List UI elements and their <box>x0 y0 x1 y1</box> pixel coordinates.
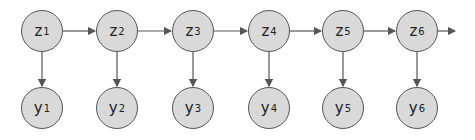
observed-node-y3: y3 <box>172 87 214 129</box>
observed-node-y5: y5 <box>322 87 364 129</box>
observed-node-y1: y1 <box>21 87 63 129</box>
hidden-node-z5: z5 <box>322 10 364 52</box>
hidden-node-z4: z4 <box>248 10 290 52</box>
observed-node-y2: y2 <box>96 87 138 129</box>
hidden-node-z6: z6 <box>396 10 438 52</box>
hidden-node-z3: z3 <box>172 10 214 52</box>
hidden-node-z1: z1 <box>21 10 63 52</box>
observed-node-y4: y4 <box>248 87 290 129</box>
hidden-node-z2: z2 <box>96 10 138 52</box>
hmm-diagram: z1 z2 z3 z4 z5 z6 y1 y2 y3 y4 y5 y6 <box>0 0 475 140</box>
observed-node-y6: y6 <box>396 87 438 129</box>
